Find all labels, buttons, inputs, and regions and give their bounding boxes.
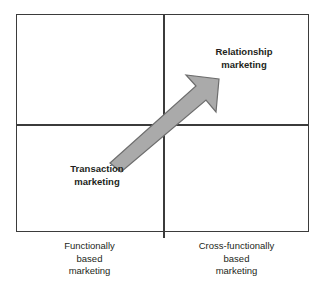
quadrant-label-transaction-marketing: Transaction marketing <box>49 163 145 188</box>
quadrant-label-relationship-marketing: Relationship marketing <box>196 46 292 71</box>
axis-caption-cross-functionally-based-marketing: Cross-functionally based marketing <box>164 240 309 278</box>
horizontal-divider <box>16 124 309 126</box>
marketing-matrix-diagram: Relationship marketing Transaction marke… <box>0 0 325 283</box>
vertical-divider <box>163 14 165 238</box>
axis-caption-functionally-based-marketing: Functionally based marketing <box>16 240 163 278</box>
